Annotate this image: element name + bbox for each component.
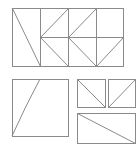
top-grid [13,9,124,67]
top-grid-line [69,9,97,38]
large-square [12,79,69,137]
small-box-right-diagonal [109,80,136,108]
large-square-curve [12,79,40,136]
wide-box [78,114,136,144]
small-box-left [78,80,106,108]
top-grid-line [41,9,69,38]
top-grid-line [41,38,69,67]
small-box-right [109,80,136,108]
top-grid-line [13,9,41,67]
top-grid-line [97,38,124,67]
top-grid-line [69,38,97,67]
small-box-left-diagonal [78,80,106,108]
geometric-diagram [0,0,139,147]
large-square-outline [13,80,69,137]
wide-box-diagonal [78,114,136,144]
